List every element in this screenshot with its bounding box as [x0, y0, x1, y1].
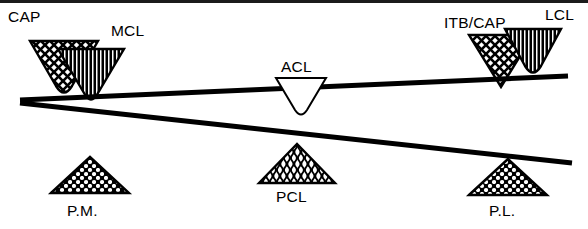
label-pcl: PCL — [276, 188, 307, 205]
label-itb-cap: ITB/CAP — [444, 14, 506, 31]
label-lcl: LCL — [545, 6, 574, 23]
top-border-bar — [0, 0, 588, 3]
label-acl: ACL — [281, 58, 312, 75]
ligament-diagram-figure: CAP MCL ACL ITB/CAP LCL P.M. PCL P.L. — [0, 0, 588, 229]
diagram-canvas: CAP MCL ACL ITB/CAP LCL P.M. PCL P.L. — [0, 0, 588, 229]
label-mcl: MCL — [111, 22, 145, 39]
label-pm: P.M. — [67, 202, 98, 219]
label-pl: P.L. — [489, 202, 515, 219]
label-cap: CAP — [8, 8, 40, 25]
